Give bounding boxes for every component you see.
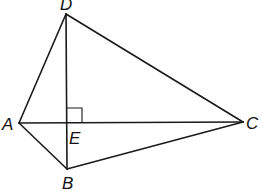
segment-ba bbox=[19, 123, 67, 169]
diagonal-db bbox=[66, 14, 67, 169]
label-a: A bbox=[1, 115, 13, 134]
segment-dc bbox=[66, 14, 243, 122]
segment-cb bbox=[67, 122, 243, 169]
diagonal-ac bbox=[19, 122, 243, 123]
quadrilateral-diagram: D A E C B bbox=[0, 0, 262, 191]
label-b: B bbox=[62, 174, 73, 191]
label-c: C bbox=[246, 114, 259, 133]
segment-ad bbox=[19, 14, 66, 123]
label-e: E bbox=[69, 129, 81, 148]
label-d: D bbox=[60, 0, 72, 14]
right-angle-marker bbox=[67, 108, 82, 123]
